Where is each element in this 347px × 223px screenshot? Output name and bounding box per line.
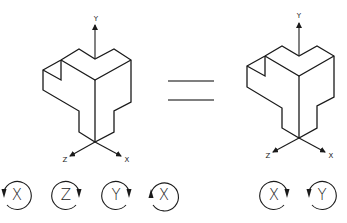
isometric-object-equivalent xyxy=(247,46,334,138)
rotation-symbol-y-2: Y xyxy=(307,181,337,209)
rotation-symbol-z: Z xyxy=(52,181,82,209)
axis-label-x: X xyxy=(329,152,334,160)
axis-label-x: X xyxy=(125,156,130,164)
arrowhead-down-icon xyxy=(77,189,82,198)
rotation-symbol-x-1: X xyxy=(2,181,32,209)
axis-label-z: Z xyxy=(266,152,271,160)
rotation-symbol-x-2: X xyxy=(149,183,179,211)
arrowhead-down-icon xyxy=(285,189,290,198)
rotation-symbol-y: Y xyxy=(102,181,132,209)
svg-text:Y: Y xyxy=(317,186,326,204)
svg-text:Y: Y xyxy=(111,186,120,204)
svg-text:X: X xyxy=(159,186,169,204)
equals-sign xyxy=(168,81,214,100)
arrowhead-down-icon xyxy=(2,189,7,198)
svg-text:X: X xyxy=(12,186,22,204)
axis-label-y: Y xyxy=(296,12,302,20)
arrowhead-up-icon xyxy=(149,189,154,198)
isometric-object-original xyxy=(43,49,131,142)
svg-text:X: X xyxy=(269,186,279,204)
axis-label-y: Y xyxy=(93,15,99,23)
diagram-canvas: Y Z X Y Z X X Z Y xyxy=(0,0,347,223)
arrowhead-down-icon xyxy=(127,189,132,198)
arrowhead-down-icon xyxy=(307,189,312,198)
axis-label-z: Z xyxy=(63,156,68,164)
rotation-symbol-x-3: X xyxy=(260,181,290,209)
svg-text:Z: Z xyxy=(61,186,71,204)
